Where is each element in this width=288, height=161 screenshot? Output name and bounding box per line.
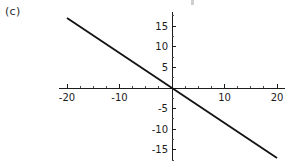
y-tick-label: -10 xyxy=(152,124,168,135)
y-tick-label: 5 xyxy=(162,62,168,73)
plot-area: -20-101020 15105-5-10-15 xyxy=(0,0,288,161)
y-tick-label: -5 xyxy=(158,103,168,114)
y-axis: 15105-5-10-15 xyxy=(152,12,176,161)
x-axis-tick-labels: -20-101020 xyxy=(59,92,284,103)
figure-panel: (c) -20-101020 15105-5-10-15 xyxy=(0,0,288,161)
x-tick-label: -20 xyxy=(59,92,75,103)
y-tick-label: 10 xyxy=(155,41,168,52)
y-tick-label: -15 xyxy=(152,144,168,155)
x-tick-label: 20 xyxy=(271,92,284,103)
x-tick-label: 10 xyxy=(218,92,231,103)
y-tick-label: 15 xyxy=(155,21,168,32)
x-tick-label: -10 xyxy=(111,92,127,103)
